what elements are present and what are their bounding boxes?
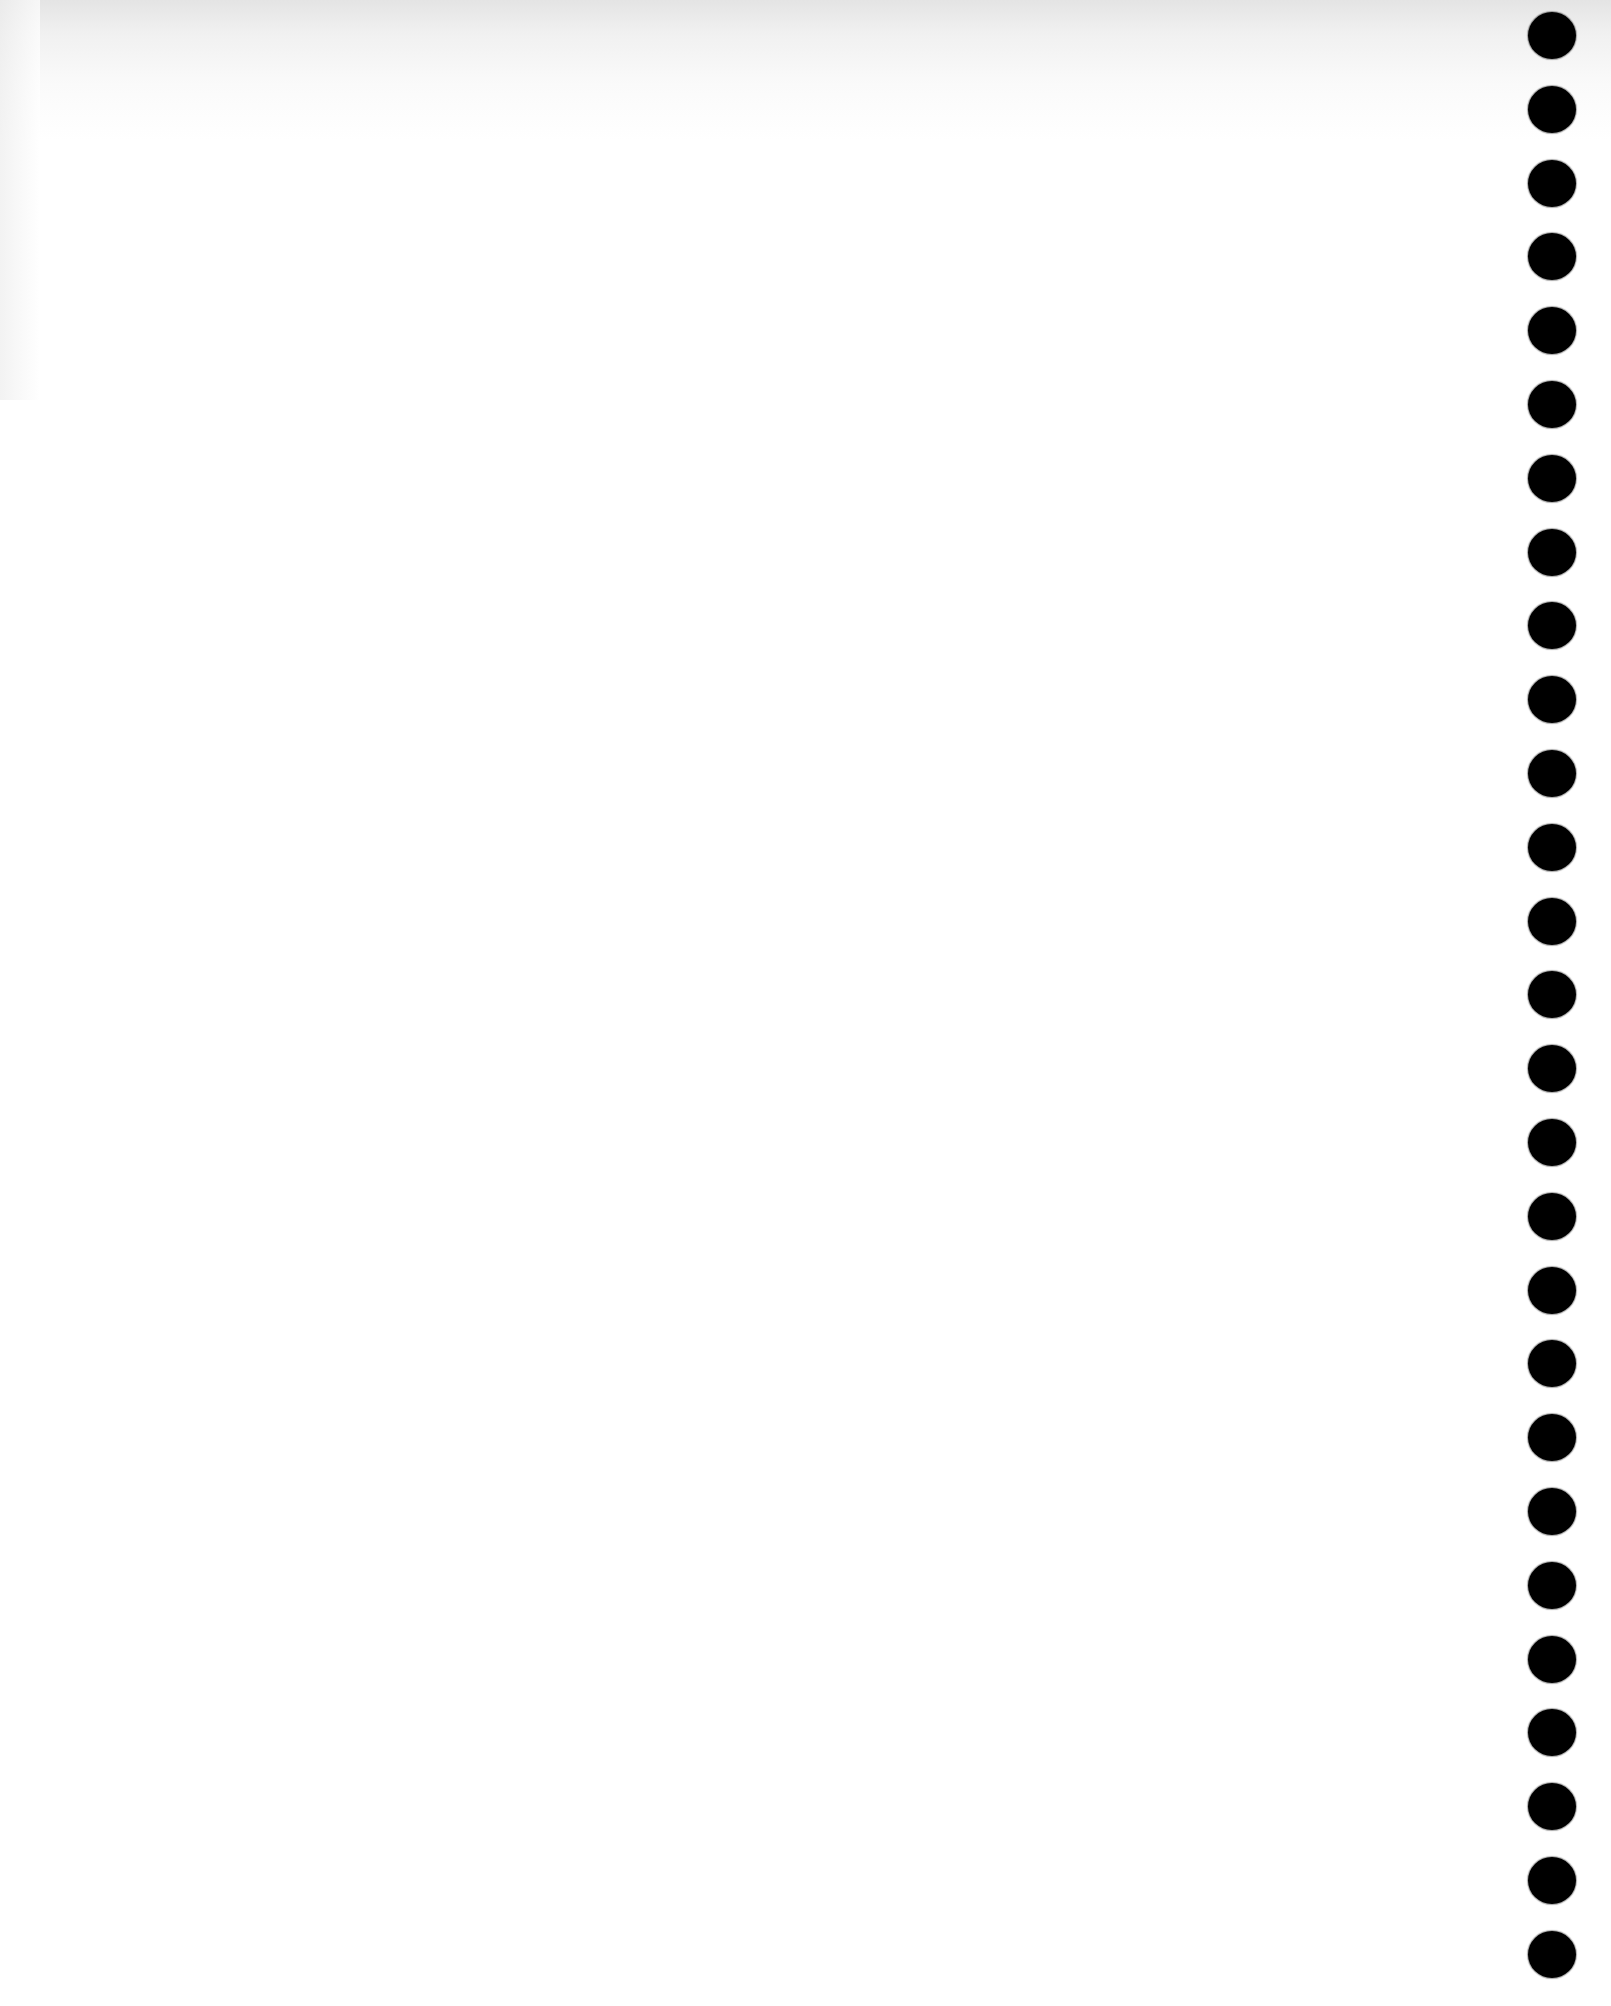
binding-hole-icon [1528,1193,1576,1240]
binding-hole-icon [1528,455,1576,502]
binding-hole-icon [1528,160,1576,207]
binding-hole-icon [1528,1709,1576,1756]
binding-hole-icon [1528,1340,1576,1387]
binding-hole-icon [1528,1119,1576,1166]
binding-hole-icon [1528,86,1576,133]
binding-hole-icon [1528,676,1576,723]
binding-hole-icon [1528,602,1576,649]
spiral-binding-holes [1520,0,1611,2006]
binding-hole-icon [1528,1562,1576,1609]
binding-hole-icon [1528,1488,1576,1535]
binding-hole-icon [1528,1636,1576,1683]
binding-hole-icon [1528,1414,1576,1461]
binding-hole-icon [1528,898,1576,945]
binding-hole-icon [1528,1783,1576,1830]
top-edge-scan-shading [0,0,1611,140]
binding-hole-icon [1528,529,1576,576]
binding-hole-icon [1528,12,1576,59]
binding-hole-icon [1528,1045,1576,1092]
binding-hole-icon [1528,971,1576,1018]
binding-hole-icon [1528,233,1576,280]
binding-hole-icon [1528,750,1576,797]
binding-hole-icon [1528,307,1576,354]
binding-hole-icon [1528,1267,1576,1314]
binding-hole-icon [1528,824,1576,871]
left-edge-scan-shading [0,0,40,400]
notebook-page [0,0,1611,2006]
binding-hole-icon [1528,381,1576,428]
binding-hole-icon [1528,1931,1576,1978]
binding-hole-icon [1528,1857,1576,1904]
